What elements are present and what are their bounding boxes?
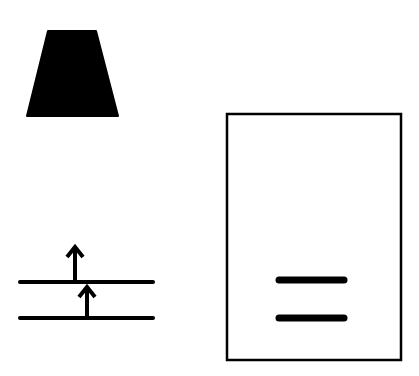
up-arrow-icon — [67, 247, 83, 282]
box-bars — [279, 280, 344, 318]
rectangle-box — [227, 114, 401, 360]
diagram-canvas — [0, 0, 419, 376]
up-arrow-icon — [79, 287, 95, 318]
trapezoid-shape — [27, 31, 118, 116]
